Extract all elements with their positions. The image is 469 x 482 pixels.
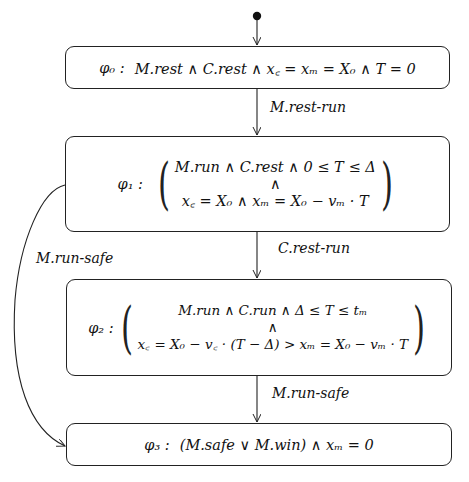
- state-phi2: φ₂ : ( M.run ∧ C.run ∧ Δ ≤ T ≤ tₘ ∧ x꜀ =…: [66, 279, 452, 376]
- state-phi1: φ₁ : ( M.run ∧ C.rest ∧ 0 ≤ T ≤ Δ ∧ x꜀ =…: [65, 136, 450, 232]
- right-paren: ): [381, 156, 393, 212]
- state-phi0: φ₀ : M.rest ∧ C.rest ∧ x꜀ = xₘ = X₀ ∧ T …: [65, 46, 450, 89]
- state-label: φ₁ :: [118, 176, 143, 192]
- conjunction: ∧: [268, 319, 278, 336]
- state-label: φ₃ :: [144, 437, 169, 453]
- conjunction: ∧: [270, 176, 281, 193]
- transition-label-rest-run: M.rest-run: [270, 99, 346, 115]
- transition-label-run-safe-bypass: M.run-safe: [36, 250, 113, 266]
- right-paren: ): [413, 300, 425, 356]
- formula-line-2: x꜀ = X₀ − v꜀ · (T − Δ) > xₘ = X₀ − vₘ · …: [137, 336, 408, 353]
- transition-label-c-rest-run: C.rest-run: [278, 240, 350, 256]
- left-paren: (: [121, 300, 133, 356]
- state-phi3: φ₃ : (M.safe ∨ M.win) ∧ xₘ = 0: [66, 423, 452, 466]
- initial-state-dot: [253, 12, 261, 20]
- formula-line-2: x꜀ = X₀ ∧ xₘ = X₀ − vₘ · T: [182, 193, 369, 210]
- state-formula: (M.safe ∨ M.win) ∧ xₘ = 0: [180, 437, 374, 453]
- left-paren: (: [158, 156, 170, 212]
- formula-line-1: M.run ∧ C.rest ∧ 0 ≤ T ≤ Δ: [175, 159, 376, 176]
- state-formula: M.rest ∧ C.rest ∧ x꜀ = xₘ = X₀ ∧ T = 0: [135, 58, 416, 78]
- state-label: φ₀ :: [99, 60, 124, 76]
- transition-label-run-safe: M.run-safe: [272, 385, 349, 401]
- state-label: φ₂ :: [88, 320, 113, 336]
- formula-line-1: M.run ∧ C.run ∧ Δ ≤ T ≤ tₘ: [178, 302, 367, 319]
